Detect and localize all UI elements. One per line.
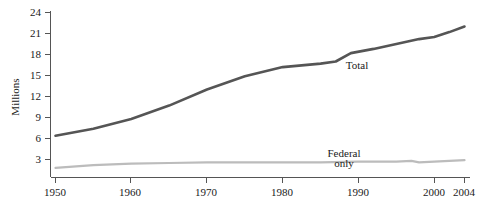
y-tick-label-18: 18	[30, 48, 42, 60]
x-tick-label-2000: 2000	[423, 186, 446, 198]
y-tick-label-12: 12	[30, 90, 41, 102]
y-tick-label-15: 15	[30, 69, 42, 81]
x-tick-label-1950: 1950	[44, 186, 67, 198]
y-tick-label-9: 9	[36, 111, 42, 123]
x-tick-label-2004: 2004	[453, 186, 476, 198]
x-axis-ticks	[56, 178, 465, 184]
x-tick-label-1960: 1960	[119, 186, 142, 198]
y-tick-label-21: 21	[30, 27, 41, 39]
y-tick-label-24: 24	[30, 6, 42, 18]
x-tick-label-1990: 1990	[347, 186, 370, 198]
series-line-total	[56, 27, 465, 136]
series-line-federal-only	[56, 160, 465, 168]
y-axis-title: Millions	[9, 78, 21, 115]
line-chart-figure: 24 21 18 15 12 9 6 3 1950 1960 1970 1980…	[0, 0, 478, 207]
y-tick-label-3: 3	[36, 153, 42, 165]
x-tick-label-1980: 1980	[271, 186, 294, 198]
y-axis-ticks	[45, 13, 51, 160]
annotation-total: Total	[346, 59, 368, 71]
y-tick-label-6: 6	[36, 132, 42, 144]
chart-plot-area: 24 21 18 15 12 9 6 3 1950 1960 1970 1980…	[0, 0, 478, 207]
x-tick-label-1970: 1970	[195, 186, 218, 198]
annotation-only: only	[334, 157, 354, 169]
